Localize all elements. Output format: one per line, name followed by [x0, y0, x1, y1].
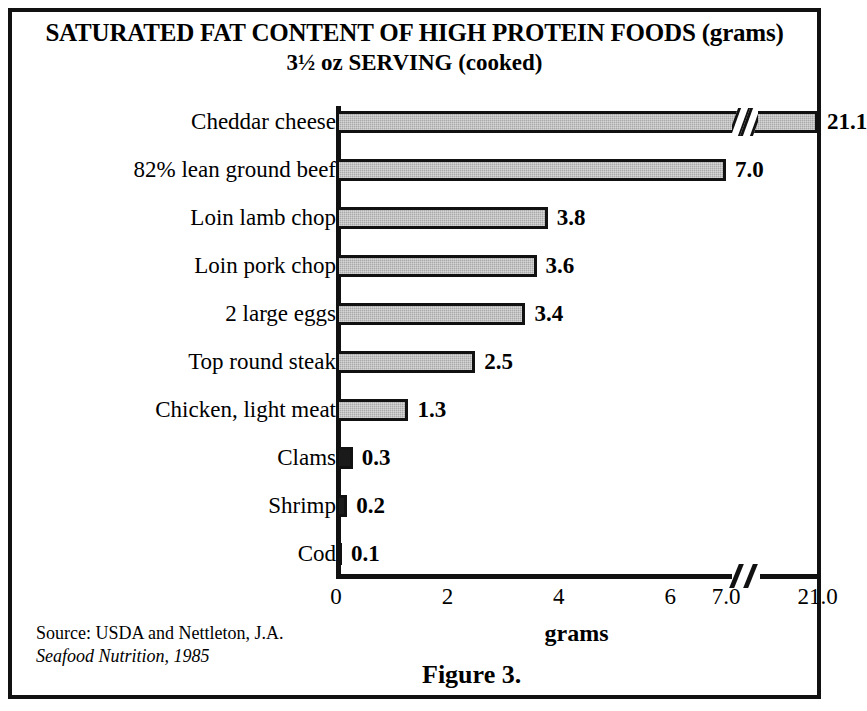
bar-value-label: 0.1 — [351, 543, 380, 565]
figure-frame: SATURATED FAT CONTENT OF HIGH PROTEIN FO… — [8, 8, 821, 699]
bar-value-label: 0.3 — [362, 447, 391, 469]
category-label: Loin lamb chop — [190, 194, 336, 242]
x-tick-label: 6 — [665, 584, 677, 610]
bar-row: Top round steak2.5 — [12, 338, 817, 386]
category-label: Cod — [298, 530, 336, 578]
source-note: Source: USDA and Nettleton, J.A. Seafood… — [36, 622, 283, 668]
bar-row: Cheddar cheese21.1 — [12, 98, 817, 146]
bar[interactable] — [336, 447, 353, 469]
bar[interactable] — [336, 303, 525, 325]
category-label: Clams — [277, 434, 336, 482]
plot-area: Cheddar cheese21.182% lean ground beef7.… — [12, 98, 817, 588]
bar-row: Chicken, light meat1.3 — [12, 386, 817, 434]
bar-value-label: 1.3 — [417, 399, 446, 421]
x-tick-label: 0 — [330, 584, 342, 610]
category-label: Top round steak — [188, 338, 336, 386]
source-line-1: Source: USDA and Nettleton, J.A. — [36, 622, 283, 645]
chart-title-line-1: SATURATED FAT CONTENT OF HIGH PROTEIN FO… — [12, 18, 817, 48]
category-label: Loin pork chop — [194, 242, 336, 290]
chart-title-line-2: 3½ oz SERVING (cooked) — [12, 48, 817, 77]
bar[interactable] — [336, 111, 818, 133]
bar-row: Shrimp0.2 — [12, 482, 817, 530]
bar-row: Loin lamb chop3.8 — [12, 194, 817, 242]
x-tick-label: 21.0 — [798, 584, 838, 610]
bar-value-label: 3.6 — [546, 255, 575, 277]
bar-value-label: 0.2 — [356, 495, 385, 517]
bar-row: 82% lean ground beef7.0 — [12, 146, 817, 194]
category-label: Cheddar cheese — [191, 98, 336, 146]
figure-caption: Figure 3. — [422, 660, 521, 690]
x-tick-label: 2 — [442, 584, 454, 610]
bar-row: 2 large eggs3.4 — [12, 290, 817, 338]
bar[interactable] — [336, 207, 548, 229]
bar[interactable] — [336, 399, 408, 421]
x-axis-title: grams — [336, 620, 817, 647]
bar-value-label: 3.8 — [557, 207, 586, 229]
bar[interactable] — [336, 543, 342, 565]
bar[interactable] — [336, 495, 347, 517]
bar-value-label: 21.1 — [827, 111, 867, 133]
bar-row: Cod0.1 — [12, 530, 817, 578]
bar-value-label: 2.5 — [484, 351, 513, 373]
category-label: 2 large eggs — [225, 290, 336, 338]
bar[interactable] — [336, 159, 726, 181]
category-label: 82% lean ground beef — [134, 146, 336, 194]
source-line-2: Seafood Nutrition, 1985 — [36, 645, 283, 668]
bar[interactable] — [336, 351, 475, 373]
category-label: Chicken, light meat — [155, 386, 336, 434]
x-tick-label: 7.0 — [712, 584, 741, 610]
bar[interactable] — [336, 255, 537, 277]
bar-value-label: 7.0 — [735, 159, 764, 181]
x-tick-label: 4 — [553, 584, 565, 610]
category-label: Shrimp — [268, 482, 336, 530]
bar-row: Clams0.3 — [12, 434, 817, 482]
bar-value-label: 3.4 — [534, 303, 563, 325]
chart-title-block: SATURATED FAT CONTENT OF HIGH PROTEIN FO… — [12, 18, 817, 77]
bar-row: Loin pork chop3.6 — [12, 242, 817, 290]
